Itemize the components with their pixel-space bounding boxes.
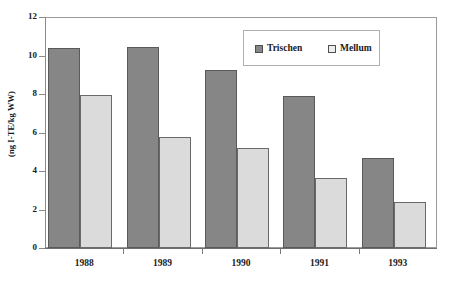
y-axis-tick bbox=[39, 248, 45, 249]
y-axis-tick-label: 8 bbox=[9, 89, 37, 98]
y-axis-tick-label: 12 bbox=[9, 12, 37, 21]
x-axis-category-label: 1991 bbox=[289, 258, 349, 269]
x-axis-category-label: 1990 bbox=[211, 258, 271, 269]
x-axis-tick bbox=[123, 249, 124, 254]
legend-label-trischen: Trischen bbox=[267, 43, 302, 54]
legend-swatch-trischen-icon bbox=[255, 45, 263, 53]
y-axis-tick bbox=[39, 17, 45, 18]
y-axis-tick bbox=[39, 210, 45, 211]
legend-label-mellum: Mellum bbox=[340, 43, 372, 54]
x-axis-tick bbox=[280, 249, 281, 254]
bar-trischen-1988 bbox=[48, 48, 80, 248]
y-axis-title-text: (ng I-TE/kg WW) bbox=[6, 91, 16, 157]
x-axis-category-label: 1989 bbox=[133, 258, 193, 269]
x-axis-tick bbox=[202, 249, 203, 254]
bar-mellum-1988 bbox=[80, 95, 112, 248]
y-axis-line bbox=[45, 17, 46, 249]
bar-trischen-1993 bbox=[362, 158, 394, 248]
y-axis-tick bbox=[39, 56, 45, 57]
y-axis-tick bbox=[39, 133, 45, 134]
y-axis-tick-label: 6 bbox=[9, 128, 37, 137]
bar-trischen-1989 bbox=[127, 47, 159, 248]
bar-mellum-1989 bbox=[159, 137, 191, 248]
bar-mellum-1993 bbox=[394, 202, 426, 248]
y-axis-tick bbox=[39, 171, 45, 172]
y-axis-tick-label: 10 bbox=[9, 51, 37, 60]
y-axis-tick bbox=[39, 94, 45, 95]
bar-mellum-1990 bbox=[237, 148, 269, 248]
x-axis-line bbox=[45, 248, 437, 249]
chart-legend: Trischen Mellum bbox=[243, 30, 380, 66]
y-axis-tick-label: 4 bbox=[9, 166, 37, 175]
legend-entry-mellum: Mellum bbox=[328, 43, 372, 54]
legend-swatch-mellum-icon bbox=[328, 45, 336, 53]
y-axis-tick-label: 0 bbox=[9, 243, 37, 252]
bar-mellum-1991 bbox=[315, 178, 347, 248]
legend-entry-trischen: Trischen bbox=[255, 43, 302, 54]
bar-trischen-1990 bbox=[205, 70, 237, 248]
x-axis-category-label: 1988 bbox=[54, 258, 114, 269]
x-axis-tick bbox=[359, 249, 360, 254]
y-axis-tick-label: 2 bbox=[9, 205, 37, 214]
bar-trischen-1991 bbox=[283, 96, 315, 248]
x-axis-category-label: 1993 bbox=[368, 258, 428, 269]
bar-chart-figure: (ng I-TE/kg WW) 024681012 19881989199019… bbox=[0, 0, 452, 285]
